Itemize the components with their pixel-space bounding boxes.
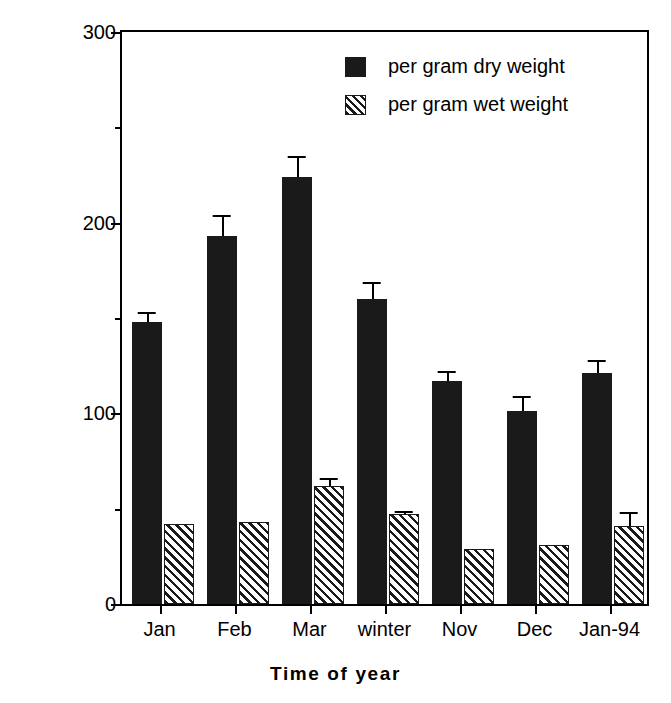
error-bar-cap [137, 312, 156, 314]
y-tick-minor [115, 127, 122, 129]
error-bar-line [522, 396, 524, 411]
error-bar-cap [287, 156, 306, 158]
error-bar-line [629, 512, 631, 525]
x-tick-label-jan: Jan [143, 618, 175, 641]
x-tick-label-jan-94: Jan-94 [579, 618, 640, 641]
error-bar-cap [394, 511, 413, 513]
legend-item: per gram wet weight [345, 93, 568, 116]
bar-mar-wet [314, 486, 344, 604]
x-tick [235, 604, 237, 614]
legend-swatch-solid-black-square [345, 57, 366, 77]
legend-swatch-hatched-square [345, 95, 366, 115]
x-tick [160, 604, 162, 614]
x-tick-label-feb: Feb [217, 618, 251, 641]
bar-winter-dry [357, 299, 387, 604]
bar-dec-wet [539, 545, 569, 604]
bar-dec-dry [507, 411, 537, 604]
error-bar-cap [512, 396, 531, 398]
bar-jan-94-dry [582, 373, 612, 604]
error-bar-cap [362, 282, 381, 284]
bar-mar-dry [282, 177, 312, 604]
y-tick-label: 100 [83, 402, 116, 425]
x-tick-label-mar: Mar [292, 618, 326, 641]
bar-feb-dry [207, 236, 237, 604]
error-bar-cap [319, 478, 338, 480]
x-axis-title: Time of year [0, 660, 671, 688]
y-axis-title: Absorbance units per gram of tissue [0, 0, 30, 71]
y-tick-label: 200 [83, 211, 116, 234]
bar-feb-wet [239, 522, 269, 604]
y-tick-label: 0 [105, 593, 116, 616]
x-tick-label-dec: Dec [517, 618, 553, 641]
x-tick-label-winter: winter [358, 618, 411, 641]
x-tick [385, 604, 387, 614]
x-tick [610, 604, 612, 614]
error-bar-cap [587, 360, 606, 362]
bar-chart: Absorbance units per gram of tissue Time… [0, 0, 671, 703]
error-bar-line [597, 360, 599, 373]
x-tick-label-nov: Nov [442, 618, 478, 641]
bar-jan-94-wet [614, 526, 644, 604]
legend-item: per gram dry weight [345, 55, 568, 78]
error-bar-line [372, 282, 374, 299]
bar-jan-dry [132, 322, 162, 604]
bar-jan-wet [164, 524, 194, 604]
y-tick-minor [115, 509, 122, 511]
bar-nov-dry [432, 381, 462, 604]
bar-winter-wet [389, 514, 419, 604]
error-bar-line [222, 215, 224, 236]
bar-nov-wet [464, 549, 494, 604]
error-bar-line [297, 156, 299, 177]
error-bar-cap [437, 371, 456, 373]
legend: per gram dry weightper gram wet weight [345, 55, 568, 131]
y-tick-label: 300 [83, 21, 116, 44]
x-tick [310, 604, 312, 614]
legend-label: per gram dry weight [388, 55, 565, 78]
x-tick [535, 604, 537, 614]
error-bar-cap [212, 215, 231, 217]
y-tick-minor [115, 318, 122, 320]
legend-label: per gram wet weight [388, 93, 568, 116]
error-bar-cap [619, 512, 638, 514]
x-tick [460, 604, 462, 614]
